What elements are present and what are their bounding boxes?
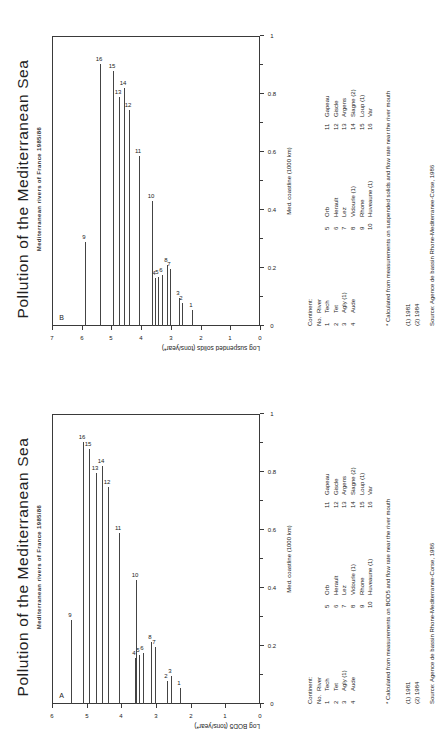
stem-label: 16: [95, 56, 102, 62]
y-tick-label: 4: [139, 335, 142, 341]
stem-label: 7: [152, 639, 155, 645]
stem-label: 14: [98, 458, 105, 464]
footnote-asterisk: * Calculated from measurements on BOD5 a…: [384, 499, 393, 704]
stem-line: [85, 242, 86, 326]
legend-row-name: Argens: [340, 476, 349, 495]
x-tick-label: 0.8: [268, 91, 276, 97]
x-tick-label: 0.4: [268, 207, 276, 213]
x-tick: [260, 529, 264, 530]
stem-line: [139, 655, 140, 704]
stem-line: [182, 303, 183, 326]
x-tick: [260, 35, 264, 36]
legend-col-no: No.: [315, 691, 324, 704]
x-tick: [260, 645, 264, 646]
x-tick-minor: [260, 64, 263, 65]
legend-row: 2Tet: [332, 292, 341, 326]
x-axis-line: [259, 414, 260, 704]
stem-label: 11: [135, 148, 141, 154]
x-axis-label: Med. coastline (1000 km): [286, 36, 292, 326]
legend-header-label: Continent:: [306, 677, 315, 704]
stem-label: 4: [132, 650, 135, 656]
stem-line: [71, 620, 72, 704]
plot-area: 00.20.40.60.8101234567123456789101112131…: [52, 36, 260, 326]
stem-label: 10: [148, 193, 155, 199]
legend-row: 4Aude: [349, 670, 358, 704]
legend-row: 11Gapeau: [323, 467, 332, 508]
legend-row-name: Tet: [332, 683, 341, 691]
x-tick-minor: [260, 500, 263, 501]
legend-header: Continent:: [306, 292, 315, 326]
legend-row: 8Vidourle (1): [349, 559, 358, 608]
legend-row-name: Rhone: [358, 199, 367, 217]
x-tick-minor: [260, 442, 263, 443]
y-tick-label: 4: [120, 713, 123, 719]
panel-a: Pollution of the Mediterranean SeaMedite…: [0, 378, 446, 756]
legend-row: 16Var: [366, 467, 375, 508]
x-tick: [260, 93, 264, 94]
legend-row: 7Lez: [340, 559, 349, 608]
x-axis-line: [259, 36, 260, 326]
y-tick-label: 2: [189, 713, 192, 719]
panel-letter: A: [59, 692, 64, 699]
y-tick-label: 7: [50, 335, 53, 341]
plot-frame-right: [52, 414, 260, 415]
legend-column-1: Continent:No.River1Tech2Tet3Agly (1)4Aud…: [306, 670, 358, 704]
y-tick: [191, 704, 192, 708]
chart-subtitle: Mediterranean rivers of France 1985/86: [36, 378, 42, 756]
y-tick-label: 1: [229, 335, 232, 341]
y-tick: [87, 704, 88, 708]
legend-row-number: 6: [332, 595, 341, 608]
legend-row: 15Loup (1): [358, 467, 367, 508]
stem-line: [158, 277, 159, 326]
legend-row: 12Giscle: [332, 89, 341, 130]
legend-row-number: 4: [349, 691, 358, 704]
y-tick: [52, 704, 53, 708]
x-tick-label: 0: [270, 701, 273, 707]
y-tick: [260, 326, 261, 330]
stem-line: [136, 580, 137, 704]
x-tick-label: 0: [270, 323, 273, 329]
stem-line: [102, 466, 103, 704]
y-tick: [121, 704, 122, 708]
x-tick-label: 0.2: [268, 643, 276, 649]
source-note: Source: Agence de bassin Rhone-Mediterra…: [428, 543, 437, 704]
legend-row-name: Gapeau: [323, 96, 332, 117]
legend-header: Continent:: [306, 670, 315, 704]
stem-line: [180, 688, 181, 704]
legend-row-name: Loup (1): [358, 473, 367, 495]
y-tick-label: 0: [258, 713, 261, 719]
legend-row-number: 2: [332, 691, 341, 704]
chart-subtitle: Mediterranean rivers of France 1985/86: [36, 0, 42, 378]
stem-line: [192, 310, 193, 326]
footnote-1: (1) 1981: [404, 682, 413, 704]
legend-row-name: Tet: [332, 305, 341, 313]
legend-row-name: Aude: [349, 299, 358, 313]
panel-letter: B: [59, 314, 64, 321]
legend-row-number: 10: [366, 217, 375, 230]
legend-row-number: 9: [358, 217, 367, 230]
legend-row-number: 11: [323, 495, 332, 508]
legend-row-name: Aude: [349, 677, 358, 691]
stem-line: [89, 449, 90, 704]
stem-line: [179, 298, 180, 326]
legend-row-name: Orb: [323, 207, 332, 217]
legend-row-number: 1: [323, 313, 332, 326]
legend-row-number: 2: [332, 313, 341, 326]
stem-label: 1: [178, 680, 181, 686]
stem-line: [162, 275, 163, 326]
x-tick: [260, 209, 264, 210]
chart-title: Pollution of the Mediterranean Sea: [14, 378, 32, 756]
footnote-2: (2) 1984: [413, 682, 422, 704]
legend-row-number: 16: [366, 117, 375, 130]
stem-line: [143, 653, 144, 704]
legend-row-name: Argens: [340, 98, 349, 117]
legend-row-number: 9: [358, 595, 367, 608]
legend-row-name: Siagne (2): [349, 89, 358, 117]
y-tick: [171, 326, 172, 330]
legend-row: 14Siagne (2): [349, 89, 358, 130]
y-tick-label: 6: [80, 335, 83, 341]
stem-line: [113, 71, 114, 326]
legend-row: 5Orb: [323, 559, 332, 608]
legend-row-number: 1: [323, 691, 332, 704]
stem-label: 6: [140, 645, 143, 651]
